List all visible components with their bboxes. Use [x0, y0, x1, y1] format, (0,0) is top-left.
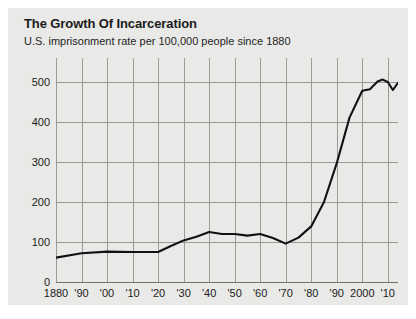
x-axis-tick-label: '90 — [330, 287, 344, 299]
x-axis-tick-label: '80 — [304, 287, 318, 299]
x-axis-tick-label: '30 — [176, 287, 190, 299]
page-title: The Growth Of Incarceration — [24, 16, 197, 31]
x-axis-tick-labels: 1880'90'00'10'20'30'40'50'60'70'80'90200… — [56, 287, 398, 303]
plot-area — [56, 58, 398, 282]
y-axis-tick-label: 400 — [32, 116, 50, 128]
chart-card: The Growth Of Incarceration U.S. impriso… — [8, 8, 408, 305]
x-axis-tick-label: '60 — [253, 287, 267, 299]
y-axis-tick-label: 500 — [32, 76, 50, 88]
x-axis-tick-label: '70 — [279, 287, 293, 299]
x-axis-tick-label: '50 — [227, 287, 241, 299]
y-axis-tick-labels: 0100200300400500 — [8, 58, 50, 282]
y-axis-tick-label: 300 — [32, 156, 50, 168]
line-series — [56, 58, 398, 282]
gridline-horizontal — [56, 282, 398, 283]
y-axis-tick-label: 100 — [32, 236, 50, 248]
x-axis-tick-label: '40 — [202, 287, 216, 299]
x-axis-tick-label: '20 — [151, 287, 165, 299]
x-axis-tick-label: '90 — [74, 287, 88, 299]
x-axis-tick-label: '00 — [100, 287, 114, 299]
x-axis-tick-label: '10 — [381, 287, 395, 299]
x-axis-tick-label: 2000 — [350, 287, 374, 299]
x-axis-tick-label: '10 — [125, 287, 139, 299]
chart-subtitle: U.S. imprisonment rate per 100,000 peopl… — [24, 35, 291, 47]
x-axis-tick-label: 1880 — [44, 287, 68, 299]
y-axis-tick-label: 200 — [32, 196, 50, 208]
